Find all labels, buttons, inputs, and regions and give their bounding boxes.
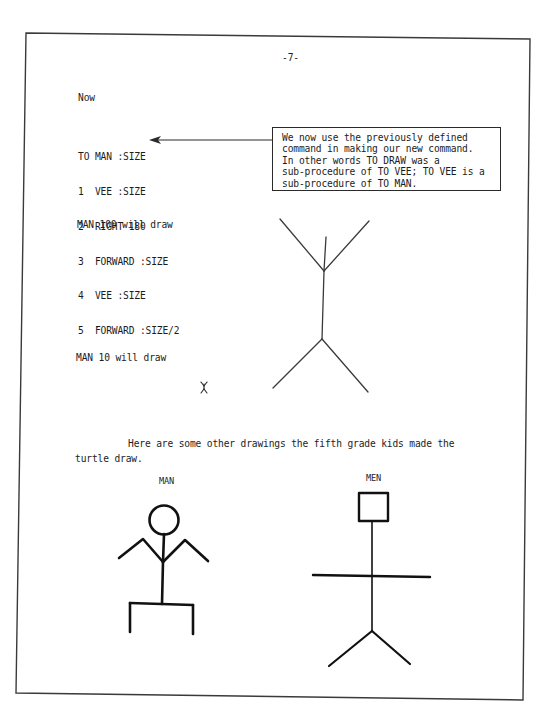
man-head bbox=[150, 506, 179, 535]
procedure-line: 1 VEE :SIZE bbox=[78, 186, 179, 198]
men-head bbox=[359, 493, 388, 521]
procedure-line: 3 FORWARD :SIZE bbox=[78, 256, 179, 268]
line-command: VEE :SIZE bbox=[95, 186, 146, 197]
procedure-code: TO MAN :SIZE 1 VEE :SIZE 2 RIGHT 180 3 F… bbox=[78, 128, 179, 360]
paragraph-line-2: turtle draw. bbox=[75, 453, 143, 465]
callout-line: sub-procedure of TO MAN. bbox=[282, 178, 500, 189]
line-number: 5 bbox=[78, 325, 84, 336]
line-number: 3 bbox=[78, 256, 84, 267]
procedure-line: 5 FORWARD :SIZE/2 bbox=[78, 325, 179, 337]
line-command: FORWARD :SIZE bbox=[95, 256, 168, 267]
page-number: -7- bbox=[282, 52, 299, 64]
scanned-page: -7- Now TO MAN :SIZE 1 VEE :SIZE 2 RIGHT… bbox=[0, 0, 551, 725]
large-man-figure bbox=[273, 219, 369, 392]
callout-line: We now use the previously defined bbox=[282, 132, 500, 143]
caption-man-10: MAN 10 will draw bbox=[76, 352, 166, 364]
kid-drawing-man bbox=[119, 506, 208, 635]
callout-line: command in making our new command. bbox=[282, 143, 500, 154]
paragraph-line-1: Here are some other drawings the fifth g… bbox=[128, 438, 454, 450]
small-man-figure bbox=[201, 382, 207, 393]
label-men: MEN bbox=[366, 473, 381, 485]
line-command: FORWARD :SIZE/2 bbox=[95, 325, 179, 336]
line-number: 1 bbox=[78, 186, 84, 197]
callout-box: We now use the previously defined comman… bbox=[272, 127, 501, 191]
kid-drawing-men bbox=[313, 493, 430, 666]
procedure-header: TO MAN :SIZE bbox=[78, 151, 179, 163]
line-command: VEE :SIZE bbox=[95, 290, 146, 301]
procedure-line: 4 VEE :SIZE bbox=[78, 290, 179, 302]
callout-line: In other words TO DRAW was a bbox=[282, 155, 500, 166]
callout-line: sub-procedure of TO VEE; TO VEE is a bbox=[282, 166, 500, 177]
label-man: MAN bbox=[159, 476, 174, 488]
line-number: 4 bbox=[78, 290, 84, 301]
caption-man-100: MAN 100 will draw bbox=[77, 219, 173, 231]
intro-text: Now bbox=[78, 92, 95, 104]
